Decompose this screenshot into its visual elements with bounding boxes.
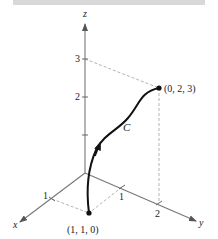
y-tick-label-2: 2 <box>155 208 160 219</box>
z-tick-label-3: 3 <box>75 53 80 64</box>
x-axis <box>20 173 85 222</box>
start-point <box>86 210 91 215</box>
y-axis <box>85 173 196 221</box>
z-axis-label: z <box>82 8 87 19</box>
y-tick-1 <box>119 185 125 189</box>
x-axis-label: x <box>12 219 18 230</box>
curve-label: C <box>123 121 131 133</box>
y-tick-2 <box>156 201 162 205</box>
dashed-guides <box>52 59 159 213</box>
start-point-label: (1, 1, 0) <box>67 224 99 236</box>
end-point-label: (0, 2, 3) <box>164 83 196 95</box>
end-point <box>156 85 161 90</box>
y-axis-label: y <box>198 217 204 228</box>
tick-marks <box>49 59 162 205</box>
y-tick-label-1: 1 <box>119 191 124 202</box>
dashed-x1-to-start <box>52 199 89 213</box>
x-tick-label-1: 1 <box>43 190 48 201</box>
z-tick-label-2: 2 <box>75 91 80 102</box>
space-curve-diagram: z x y 3 2 1 1 1 2 C (1, 1, 0) (0, 2, 3) <box>0 0 218 239</box>
dashed-z3-to-endpoint <box>85 59 159 88</box>
dashed-y1-to-start <box>89 187 122 213</box>
z-tick-label-1: 1 <box>75 129 80 140</box>
